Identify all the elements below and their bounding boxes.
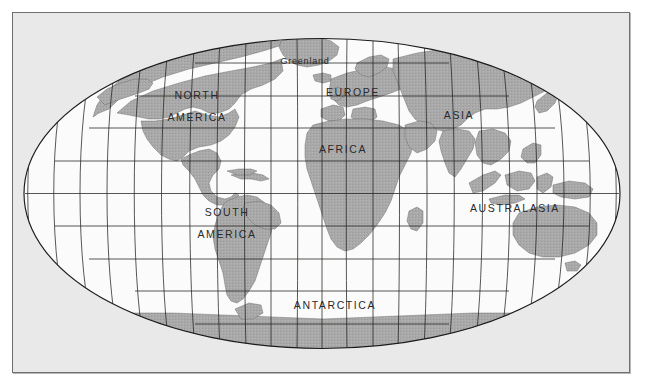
world-map-svg: Greenland NORTH AMERICA EUROPE ASIA AFRI… <box>13 13 631 374</box>
land-kamchatka <box>543 57 567 77</box>
map-plate: Greenland NORTH AMERICA EUROPE ASIA AFRI… <box>12 12 630 373</box>
screenshot-root: Greenland NORTH AMERICA EUROPE ASIA AFRI… <box>0 0 646 385</box>
label-africa: AFRICA <box>319 143 367 155</box>
label-north-america-line2: AMERICA <box>167 111 226 123</box>
label-greenland: Greenland <box>280 56 329 66</box>
label-antarctica: ANTARCTICA <box>294 299 376 311</box>
land-nz-south <box>597 257 615 273</box>
label-australasia: AUSTRALASIA <box>470 202 560 214</box>
land-new-zealand <box>605 239 623 259</box>
map-canvas: Greenland NORTH AMERICA EUROPE ASIA AFRI… <box>13 13 631 374</box>
label-europe: EUROPE <box>326 86 380 98</box>
label-south-america-line1: SOUTH <box>205 206 250 218</box>
label-asia: ASIA <box>444 109 474 121</box>
label-south-america-line2: AMERICA <box>197 228 256 240</box>
label-north-america-line1: NORTH <box>174 89 219 101</box>
